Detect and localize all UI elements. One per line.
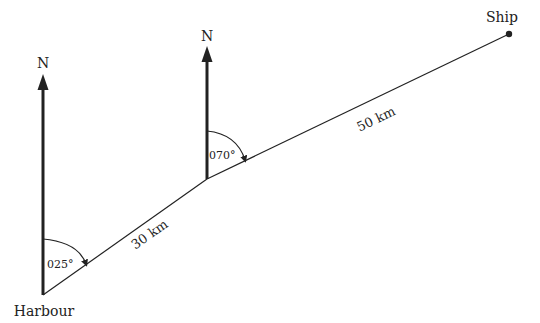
bearing-label-harbour: 025° (47, 258, 74, 271)
bearing-label-turn: 070° (209, 149, 236, 162)
harbour-label: Harbour (14, 303, 75, 319)
leg-1-line (43, 179, 207, 295)
bearing-diagram: N N 025° 070° 30 km 50 km Harbour Ship (0, 0, 540, 323)
leg-2-line (207, 34, 509, 179)
ship-label: Ship (486, 9, 518, 25)
arrowhead-icon (202, 46, 213, 62)
arrowhead-icon (38, 74, 49, 90)
north-label-harbour: N (37, 55, 49, 71)
north-label-turn: N (201, 28, 213, 44)
distance-label-leg-2: 50 km (354, 103, 397, 134)
distance-label-leg-1: 30 km (128, 216, 170, 252)
ship-point (506, 31, 512, 37)
